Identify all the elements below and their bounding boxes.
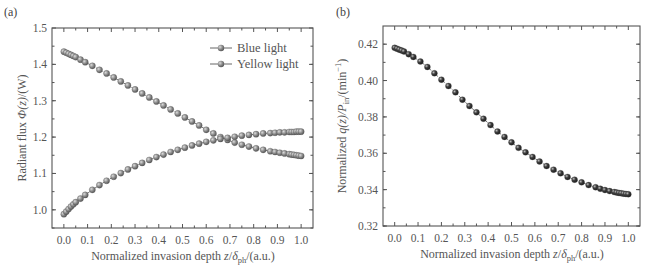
data-point <box>146 94 152 100</box>
data-point <box>232 134 238 140</box>
data-point <box>431 70 437 76</box>
data-point <box>509 139 515 145</box>
data-point <box>586 182 592 188</box>
x-tick-label: 0.9 <box>598 232 613 244</box>
x-tick-label: 0.7 <box>223 234 238 246</box>
x-tick-label: 1.0 <box>621 232 636 244</box>
data-point <box>203 127 209 133</box>
series-a <box>61 49 304 218</box>
data-point <box>523 149 529 155</box>
panel-b-label: (b) <box>336 5 350 19</box>
data-point <box>224 135 230 141</box>
x-tick-label: 0.3 <box>458 232 473 244</box>
legend-label: Blue light <box>237 41 287 55</box>
x-tick-label: 0.8 <box>246 234 261 246</box>
x-tick-labels-b: 0.00.10.20.30.40.50.60.70.80.91.0 <box>387 232 635 244</box>
data-point <box>544 163 550 169</box>
marker-icon <box>218 45 224 51</box>
y-tick-label: 0.36 <box>358 147 378 159</box>
data-point <box>452 89 458 95</box>
data-point <box>480 116 486 122</box>
data-point <box>103 70 109 76</box>
data-point <box>217 136 223 142</box>
series-b <box>392 45 632 197</box>
x-axis-label-b: Normalized invasion depth z/δph/(a.u.) <box>420 247 604 263</box>
data-point <box>487 122 493 128</box>
data-point <box>203 139 209 145</box>
x-tick-label: 0.1 <box>80 234 95 246</box>
legend-item-yellow-light: Yellow light <box>210 57 299 71</box>
data-point <box>466 103 472 109</box>
data-point <box>253 145 259 151</box>
x-tick-label: 0.4 <box>152 234 167 246</box>
data-point <box>232 139 238 145</box>
data-point <box>196 141 202 147</box>
data-point <box>160 102 166 108</box>
x-tick-label: 0.2 <box>104 234 119 246</box>
legend-a: Blue light Yellow light <box>210 41 299 71</box>
figure: (a) 1.01.11.21.31.41.5 0.00.10.20.30.40.… <box>0 0 650 275</box>
legend-item-blue-light: Blue light <box>210 41 287 55</box>
data-point <box>530 154 536 160</box>
data-point <box>210 130 216 136</box>
data-point <box>139 90 145 96</box>
series-normalized-q-z-pin <box>392 45 632 197</box>
data-point <box>558 170 564 176</box>
data-point <box>118 170 124 176</box>
panel-a: (a) 1.01.11.21.31.41.5 0.00.10.20.30.40.… <box>4 5 313 265</box>
data-point <box>459 97 465 103</box>
x-tick-label: 0.0 <box>387 232 402 244</box>
legend-label: Yellow light <box>237 57 299 71</box>
data-point <box>424 64 430 70</box>
marker-icon <box>218 61 224 67</box>
y-tick-label: 0.38 <box>358 111 378 123</box>
data-point <box>89 63 95 69</box>
data-point <box>246 132 252 138</box>
data-point <box>298 129 304 135</box>
data-point <box>182 114 188 120</box>
data-point <box>260 147 266 153</box>
data-point <box>175 147 181 153</box>
data-point <box>625 191 631 197</box>
data-point <box>96 182 102 188</box>
data-point <box>298 153 304 159</box>
x-tick-label: 0.1 <box>411 232 426 244</box>
data-point <box>246 143 252 149</box>
x-tick-label: 0.8 <box>574 232 589 244</box>
data-point <box>494 128 500 134</box>
data-point <box>438 77 444 83</box>
data-point <box>473 109 479 115</box>
data-point <box>139 160 145 166</box>
y-tick-labels-b: 0.320.340.360.380.400.42 <box>358 38 378 232</box>
series-yellow-light <box>61 129 304 218</box>
x-tick-label: 0.3 <box>128 234 143 246</box>
x-tick-label: 0.0 <box>57 234 72 246</box>
y-tick-label: 1.0 <box>33 204 48 216</box>
data-point <box>196 122 202 128</box>
y-axis-label-b: Normalized q(z)/Pin/(min−1) <box>333 59 351 194</box>
x-tick-label: 0.4 <box>481 232 496 244</box>
data-point <box>111 174 117 180</box>
data-point <box>189 142 195 148</box>
y-tick-label: 0.34 <box>358 184 378 196</box>
data-point <box>516 145 522 151</box>
data-point <box>572 177 578 183</box>
x-tick-label: 0.7 <box>551 232 566 244</box>
x-axis-label-a: Normalized invasion depth z/δph/(a.u.) <box>91 249 275 265</box>
data-point <box>239 133 245 139</box>
data-point <box>153 154 159 160</box>
data-point <box>537 158 543 164</box>
y-tick-label: 0.32 <box>358 220 378 232</box>
data-point <box>501 134 507 140</box>
data-point <box>417 58 423 64</box>
data-point <box>132 86 138 92</box>
data-point <box>210 137 216 143</box>
data-point <box>132 163 138 169</box>
data-point <box>410 54 416 60</box>
data-point <box>153 98 159 104</box>
x-tick-labels-a: 0.00.10.20.30.40.50.60.70.80.91.0 <box>57 234 309 246</box>
data-point <box>260 130 266 136</box>
x-tick-label: 0.5 <box>175 234 190 246</box>
y-tick-label: 1.4 <box>33 58 48 70</box>
data-point <box>189 118 195 124</box>
